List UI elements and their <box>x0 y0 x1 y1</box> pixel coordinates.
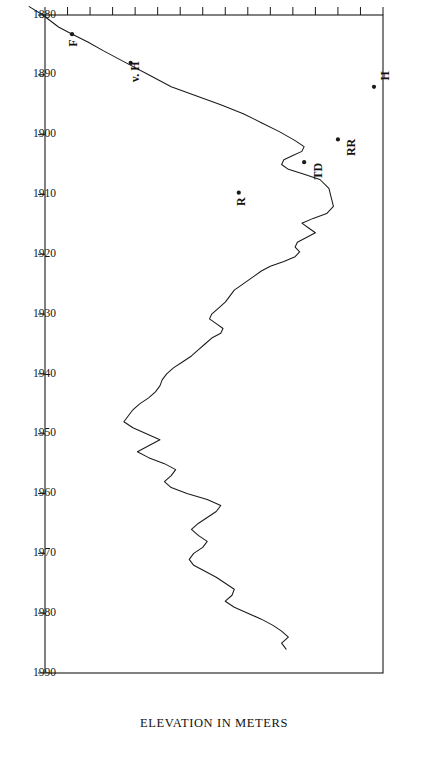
year-tick-label: 1960 <box>33 486 56 498</box>
elevation-tick-label: 1889 <box>218 0 230 1</box>
data-point-marker <box>372 85 376 89</box>
annotation-label: H <box>378 70 392 80</box>
plot-frame <box>45 15 383 673</box>
chart-figure: 1880189019001910192019301940195019601970… <box>0 0 424 767</box>
elevation-axis-title: ELEVATION IN METERS <box>140 716 288 730</box>
year-tick-label: 1990 <box>33 666 56 678</box>
elevation-tick-label: 1882 <box>60 0 72 1</box>
elevation-tick-label: 1886 <box>150 0 162 1</box>
elevation-tick-label: 1893 <box>308 0 320 1</box>
data-point-marker <box>237 191 241 195</box>
chart-plot-svg: 1880189019001910192019301940195019601970… <box>0 0 424 767</box>
elevation-tick-label: 1884 <box>105 0 117 1</box>
elevation-tick-label: 1896 <box>376 0 388 1</box>
data-point-marker <box>336 137 340 141</box>
elevation-tick-label: 1894 <box>331 0 343 1</box>
year-tick-label: 1890 <box>33 67 56 79</box>
data-point-marker <box>302 160 306 164</box>
elevation-tick-label: 1895 <box>353 0 365 1</box>
year-tick-label: 1880 <box>33 8 56 20</box>
year-tick-label: 1980 <box>33 606 56 618</box>
elevation-series-line <box>29 7 333 649</box>
annotation-group: HRRTDRv. HF <box>66 32 392 206</box>
annotation-label: v. H <box>128 61 142 82</box>
year-tick-label: 1970 <box>33 546 56 558</box>
elevation-axis-tick-labels: 1896189518941893189218911890188918881887… <box>38 0 388 1</box>
elevation-tick-label: 1881 <box>38 0 50 1</box>
elevation-axis-ticks <box>45 7 383 15</box>
elevation-tick-label: 1887 <box>173 0 185 1</box>
elevation-tick-label: 1885 <box>128 0 140 1</box>
year-tick-label: 1900 <box>33 127 56 139</box>
annotation-label: RR <box>344 138 358 156</box>
year-axis-ticks <box>38 15 45 673</box>
annotation-label: TD <box>311 162 325 179</box>
elevation-tick-label: 1891 <box>263 0 275 1</box>
elevation-tick-label: 1890 <box>240 0 252 1</box>
year-tick-label: 1940 <box>33 367 56 379</box>
elevation-tick-label: 1883 <box>83 0 95 1</box>
annotation-label: R <box>234 197 248 206</box>
elevation-tick-label: 1892 <box>286 0 298 1</box>
annotation-label: F <box>66 39 80 46</box>
elevation-tick-label: 1888 <box>195 0 207 1</box>
year-tick-label: 1950 <box>33 426 56 438</box>
year-tick-label: 1910 <box>33 187 56 199</box>
year-tick-label: 1930 <box>33 307 56 319</box>
data-point-marker <box>70 32 74 36</box>
year-tick-label: 1920 <box>33 247 56 259</box>
